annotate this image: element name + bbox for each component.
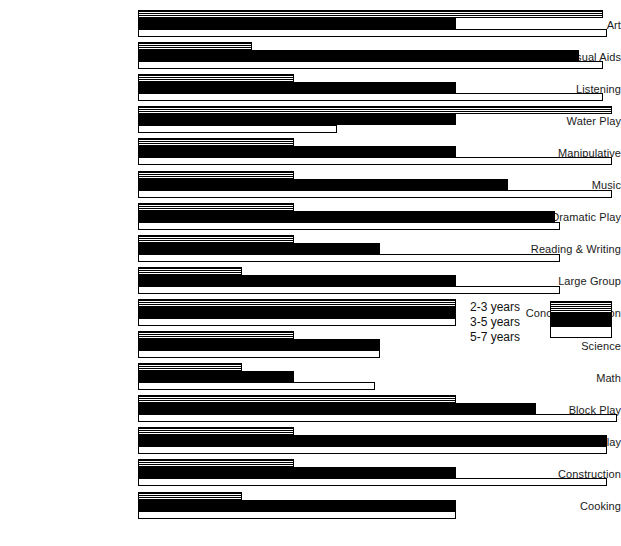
bar-5-7-years	[138, 93, 603, 101]
bar-3-5-years	[138, 500, 456, 511]
chart-plot-area: ArtVisual AidsListeningWater PlayManipul…	[0, 0, 621, 546]
bar-group-indoor-active-play: Indoor Active Play	[0, 427, 621, 456]
bar-group-reading-writing: Reading & Writing	[0, 235, 621, 264]
bar-2-3-years	[138, 42, 252, 50]
bar-group-art: Art	[0, 10, 621, 39]
bar-5-7-years	[138, 511, 456, 519]
bar-3-5-years	[138, 275, 456, 286]
chart-legend: 2-3 years3-5 years5-7 years	[470, 300, 615, 346]
legend-label-list: 2-3 years3-5 years5-7 years	[470, 300, 544, 345]
bar-3-5-years	[138, 435, 607, 446]
bar-2-3-years	[138, 10, 603, 18]
bar-group-math: Math	[0, 363, 621, 392]
bar-5-7-years	[138, 29, 607, 37]
bar-2-3-years	[138, 106, 612, 114]
bar-5-7-years	[138, 414, 617, 422]
bar-3-5-years	[138, 82, 456, 93]
bar-group-large-group: Large Group	[0, 267, 621, 296]
legend-label-1: 2-3 years	[470, 300, 544, 315]
bar-5-7-years	[138, 254, 560, 262]
bar-group-cooking: Cooking	[0, 492, 621, 521]
bar-2-3-years	[138, 363, 242, 371]
bar-3-5-years	[138, 179, 508, 190]
bar-5-7-years	[138, 190, 612, 198]
bar-3-5-years	[138, 211, 555, 222]
bar-group-visual-aids: Visual Aids	[0, 42, 621, 71]
category-label: Cooking	[490, 500, 621, 512]
bar-5-7-years	[138, 61, 603, 69]
legend-label-3: 5-7 years	[470, 330, 544, 345]
bar-2-3-years	[138, 395, 456, 403]
bar-5-7-years	[138, 157, 612, 165]
bar-5-7-years	[138, 350, 380, 358]
hatched-swatch	[550, 301, 612, 313]
bar-2-3-years	[138, 299, 456, 307]
bar-chart: ArtVisual AidsListeningWater PlayManipul…	[0, 0, 621, 546]
bar-5-7-years	[138, 318, 456, 326]
category-label: Water Play	[490, 115, 621, 127]
bar-group-manipulative: Manipulative	[0, 138, 621, 167]
bar-group-block-play: Block Play	[0, 395, 621, 424]
bar-2-3-years	[138, 267, 242, 275]
bar-2-3-years	[138, 171, 294, 179]
bar-5-7-years	[138, 478, 607, 486]
bar-2-3-years	[138, 203, 294, 211]
bar-3-5-years	[138, 371, 294, 382]
legend-swatch-list	[550, 301, 612, 338]
bar-2-3-years	[138, 331, 294, 339]
bar-group-listening: Listening	[0, 74, 621, 103]
bar-2-3-years	[138, 427, 294, 435]
bar-3-5-years	[138, 114, 456, 125]
bar-3-5-years	[138, 243, 380, 254]
bar-5-7-years	[138, 382, 375, 390]
bar-5-7-years	[138, 222, 560, 230]
bar-3-5-years	[138, 18, 456, 29]
bar-3-5-years	[138, 307, 456, 318]
bar-5-7-years	[138, 125, 337, 133]
bar-2-3-years	[138, 138, 294, 146]
bar-group-water-play: Water Play	[0, 106, 621, 135]
bar-group-construction: Construction	[0, 459, 621, 488]
solid-black-swatch	[550, 313, 612, 326]
bar-2-3-years	[138, 74, 294, 82]
bar-2-3-years	[138, 235, 294, 243]
bar-group-music: Music	[0, 171, 621, 200]
bar-3-5-years	[138, 339, 380, 350]
bar-3-5-years	[138, 403, 536, 414]
white-outline-swatch	[550, 326, 612, 338]
bar-3-5-years	[138, 467, 456, 478]
bar-5-7-years	[138, 286, 560, 294]
bar-group-dramatic-play: Dramatic Play	[0, 203, 621, 232]
category-label: Math	[490, 372, 621, 384]
legend-label-2: 3-5 years	[470, 315, 544, 330]
bar-5-7-years	[138, 446, 607, 454]
bar-2-3-years	[138, 492, 242, 500]
bar-2-3-years	[138, 459, 294, 467]
bar-3-5-years	[138, 50, 579, 61]
bar-3-5-years	[138, 146, 456, 157]
